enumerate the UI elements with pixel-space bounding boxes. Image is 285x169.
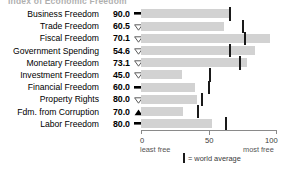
chart-row: Fdm. from Corruption70.0	[0, 106, 285, 118]
chart-row: Trade Freedom60.5	[0, 20, 285, 32]
x-tick-label-100: 100	[265, 136, 278, 145]
row-world-average-marker	[225, 117, 227, 130]
row-world-average-marker	[208, 81, 210, 94]
row-bar	[141, 107, 183, 116]
row-label: Fiscal Freedom	[0, 32, 99, 44]
row-label: Property Rights	[0, 93, 99, 105]
row-label: Investment Freedom	[0, 69, 99, 81]
row-score: 60.5	[104, 20, 130, 32]
x-axis	[141, 130, 277, 134]
row-score: 60.0	[104, 81, 130, 93]
row-plot	[141, 81, 277, 93]
row-bar	[141, 70, 182, 79]
chart-row: Labor Freedom80.0	[0, 118, 285, 130]
row-bar	[141, 119, 212, 128]
row-bar	[141, 58, 247, 67]
x-tick-label-50: 50	[205, 136, 213, 145]
row-world-average-marker	[197, 105, 199, 118]
chart-rows: Business Freedom90.0Trade Freedom60.5Fis…	[0, 8, 285, 130]
row-world-average-marker	[239, 56, 241, 69]
chart-row: Financial Freedom60.0	[0, 81, 285, 93]
row-score: 70.1	[104, 32, 130, 44]
row-bar	[141, 95, 197, 104]
row-label: Government Spending	[0, 45, 99, 57]
row-plot	[141, 93, 277, 105]
chart-row: Monetary Freedom73.1	[0, 57, 285, 69]
row-label: Monetary Freedom	[0, 57, 99, 69]
chart-row: Fiscal Freedom70.1	[0, 32, 285, 44]
x-tick-label-0: 0	[140, 136, 144, 145]
least-free-label: least free	[140, 145, 170, 154]
legend: = world average	[183, 152, 241, 164]
row-score: 45.0	[104, 69, 130, 81]
row-world-average-marker	[244, 32, 246, 45]
row-bar	[141, 83, 195, 92]
row-bar	[141, 46, 255, 55]
row-world-average-marker	[229, 44, 231, 57]
x-axis-midtick	[209, 131, 210, 135]
row-plot	[141, 69, 277, 81]
row-label: Trade Freedom	[0, 20, 99, 32]
row-plot	[141, 118, 277, 130]
row-plot	[141, 20, 277, 32]
row-score: 70.0	[104, 106, 130, 118]
chart-row: Government Spending54.6	[0, 45, 285, 57]
row-score: 73.1	[104, 57, 130, 69]
row-score: 54.6	[104, 45, 130, 57]
row-label: Labor Freedom	[0, 118, 99, 130]
world-average-marker-icon	[183, 153, 185, 163]
row-bar	[141, 9, 229, 18]
chart-row: Property Rights80.0	[0, 93, 285, 105]
row-label: Business Freedom	[0, 8, 99, 20]
row-world-average-marker	[229, 7, 231, 20]
row-label: Financial Freedom	[0, 81, 99, 93]
row-plot	[141, 57, 277, 69]
row-bar	[141, 34, 270, 43]
most-free-label: most free	[243, 145, 274, 154]
x-axis-labels: 0 50 100 least free most free	[0, 136, 285, 156]
chart-title: Index of Economic Freedom	[8, 0, 208, 4]
row-plot	[141, 106, 277, 118]
row-plot	[141, 8, 277, 20]
chart-row: Business Freedom90.0	[0, 8, 285, 20]
legend-label: = world average	[188, 154, 241, 163]
row-world-average-marker	[242, 20, 244, 33]
economic-freedom-bar-chart: Index of Economic Freedom Business Freed…	[0, 0, 285, 169]
row-score: 80.0	[104, 118, 130, 130]
row-world-average-marker	[201, 93, 203, 106]
row-bar	[141, 22, 224, 31]
row-score: 80.0	[104, 93, 130, 105]
row-plot	[141, 45, 277, 57]
chart-row: Investment Freedom45.0	[0, 69, 285, 81]
row-score: 90.0	[104, 8, 130, 20]
row-label: Fdm. from Corruption	[0, 106, 99, 118]
row-plot	[141, 32, 277, 44]
